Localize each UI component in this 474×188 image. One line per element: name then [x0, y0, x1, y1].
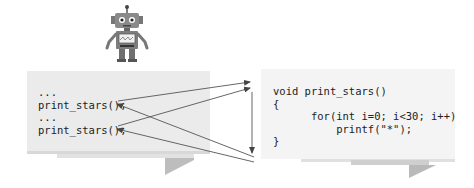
call-flow-arrows — [0, 0, 474, 188]
call-arrow-1 — [118, 82, 250, 101]
call-arrow-2 — [118, 88, 250, 126]
return-arrow-1 — [117, 104, 254, 157]
return-arrow-2 — [117, 129, 254, 162]
